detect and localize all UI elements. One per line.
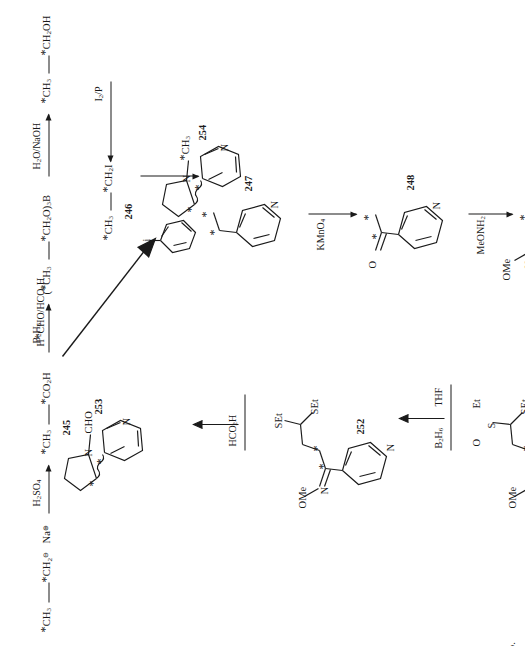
atom-o-251: O (470, 438, 481, 446)
compound-number-252: 252 (354, 418, 365, 434)
counterion-sodium: Na⊕ (40, 524, 52, 543)
atom-n-pyridine-253: N (120, 417, 131, 425)
scheme-canvas: *CH3 *CH2⊖ Na⊕ H2SO4 *CH3 *CO2H 245 B2H6… (0, 0, 525, 646)
reaction-arrow-9 (398, 404, 444, 424)
group-nmethyl-254: *CH3 (179, 135, 192, 160)
bond-246 (110, 192, 111, 210)
reagent-meonh2: MeONH2 (474, 216, 486, 254)
atom-n-252: N (384, 443, 395, 451)
compound-starting-material-anion: *CH2⊖ (40, 551, 54, 582)
label-star-252a: * (318, 463, 329, 469)
atom-n-pyridine-254: N (218, 143, 229, 151)
group-set-252-b: SEt (272, 413, 283, 428)
atom-n-pyrrolidine-253: N (82, 448, 93, 456)
compound-number-253: 253 (92, 398, 103, 414)
group-set-252-a: SEt (308, 399, 319, 414)
label-star-254a: * (186, 206, 197, 212)
reagent-divider-line (450, 384, 451, 450)
bond-borate (48, 241, 49, 259)
reagent-hcho-hco2h: H*CHO/HCO2H (34, 277, 46, 346)
group-ome-251: OMe (506, 486, 517, 508)
label-star-254b: * (194, 184, 205, 190)
reaction-arrow-2 (48, 304, 49, 352)
reaction-arrow-6 (308, 213, 356, 214)
reagent-kmno4: KMnO4 (314, 218, 326, 250)
reaction-arrow-4 (110, 81, 111, 161)
atom-n-oxime-252: N (318, 486, 329, 494)
reagent-divider-line-2 (244, 394, 245, 450)
group-ome-252: OMe (296, 486, 307, 508)
compound-number-248: 248 (404, 174, 415, 190)
group-et-251: Et (470, 398, 481, 408)
scheme-page: *CH3 *CH2⊖ Na⊕ H2SO4 *CH3 *CO2H 245 B2H6… (0, 0, 525, 646)
compound-246-ch2i: *CH2I (102, 164, 115, 192)
compound-ethanol-ch2oh: *CH2OH (40, 15, 53, 55)
reagent-thf: THF (432, 387, 443, 406)
reaction-arrow-10 (192, 410, 238, 430)
compound-borate-ch2o3b: *CH2O)3B (40, 194, 53, 241)
caption-text: Scheme 37. Synthesis of racemic nicotine… (505, 642, 517, 646)
atom-s-251: S (485, 422, 496, 428)
label-star-249b: * (519, 214, 525, 220)
reagent-i2-p: I2/P (92, 86, 104, 101)
compound-starting-material: *CH3 (40, 607, 53, 632)
group-set-251: SEt (518, 399, 525, 414)
label-star-248b: * (363, 214, 374, 220)
label-star-248a: * (371, 233, 382, 239)
label-star-252b: * (312, 445, 323, 451)
reaction-arrow-3 (48, 114, 49, 176)
scheme-caption: Scheme 37. Synthesis of racemic nicotine… (501, 642, 519, 646)
atom-n-248: N (430, 201, 441, 209)
atom-n-pyrrolidine-254: N (180, 174, 191, 182)
reaction-arrow-7 (468, 213, 512, 214)
bond-ethanol (48, 55, 49, 73)
group-ome-249: OMe (500, 258, 511, 280)
reagent-b2h6-2: B2H6 (432, 427, 444, 448)
reagent-h2o-naoh: H2O/NaOH (30, 122, 42, 169)
group-cho-253: CHO (82, 411, 93, 433)
atom-o-248: O (366, 260, 377, 268)
label-star-253b: * (96, 458, 107, 464)
reagent-h2so4: H2SO4 (30, 479, 42, 506)
compound-number-254: 254 (196, 124, 207, 140)
bond-sm (48, 582, 49, 602)
compound-ethanol-ch3: *CH3 (40, 78, 53, 103)
label-star-253a: * (88, 480, 99, 486)
